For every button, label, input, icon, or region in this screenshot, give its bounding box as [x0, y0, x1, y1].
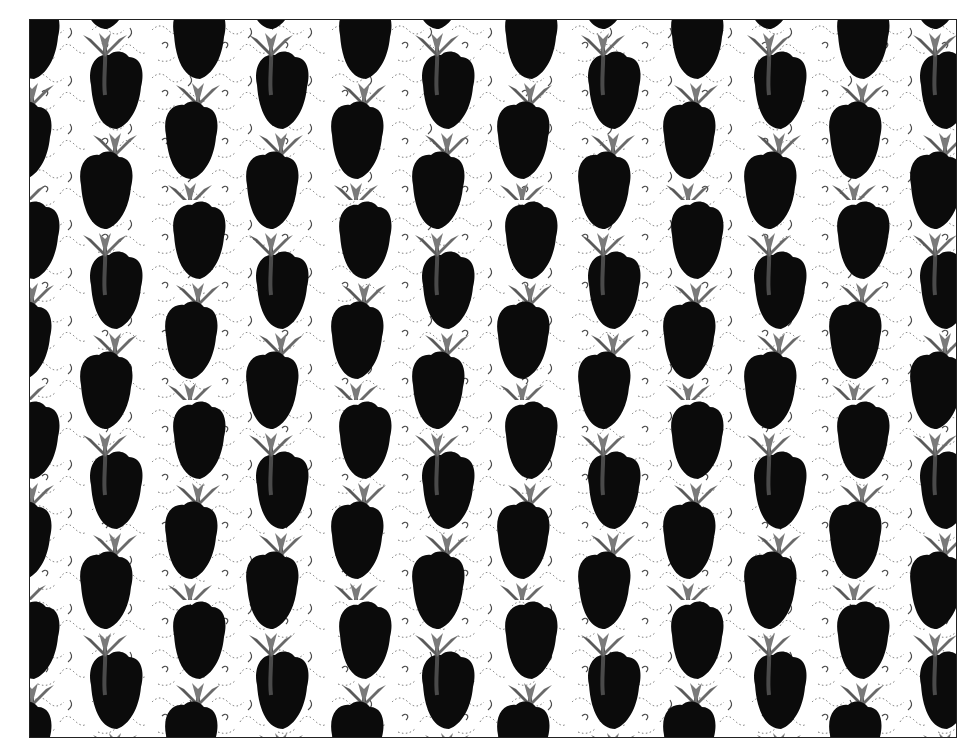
tulip-pattern [30, 20, 956, 737]
stereogram-image: Autostereogram-style repeating pattern o… [29, 19, 957, 738]
